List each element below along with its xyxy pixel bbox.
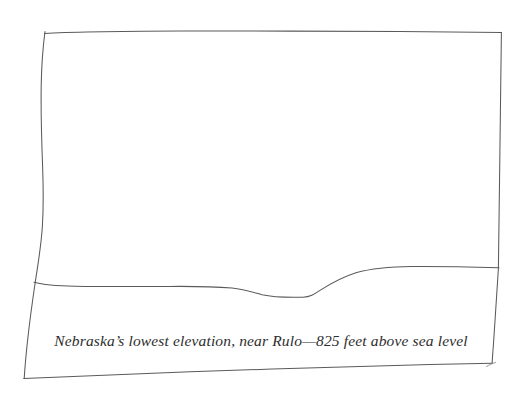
frame-bottom-edge: [24, 363, 493, 378]
frame-top-edge: [45, 31, 502, 34]
frame-left-edge: [24, 32, 45, 379]
horizon-line: [34, 267, 499, 298]
frame-right-edge: [492, 32, 501, 363]
sketch-caption: Nebraska’s lowest elevation, near Rulo—8…: [0, 331, 522, 351]
sketch-page: Nebraska’s lowest elevation, near Rulo—8…: [0, 0, 522, 396]
